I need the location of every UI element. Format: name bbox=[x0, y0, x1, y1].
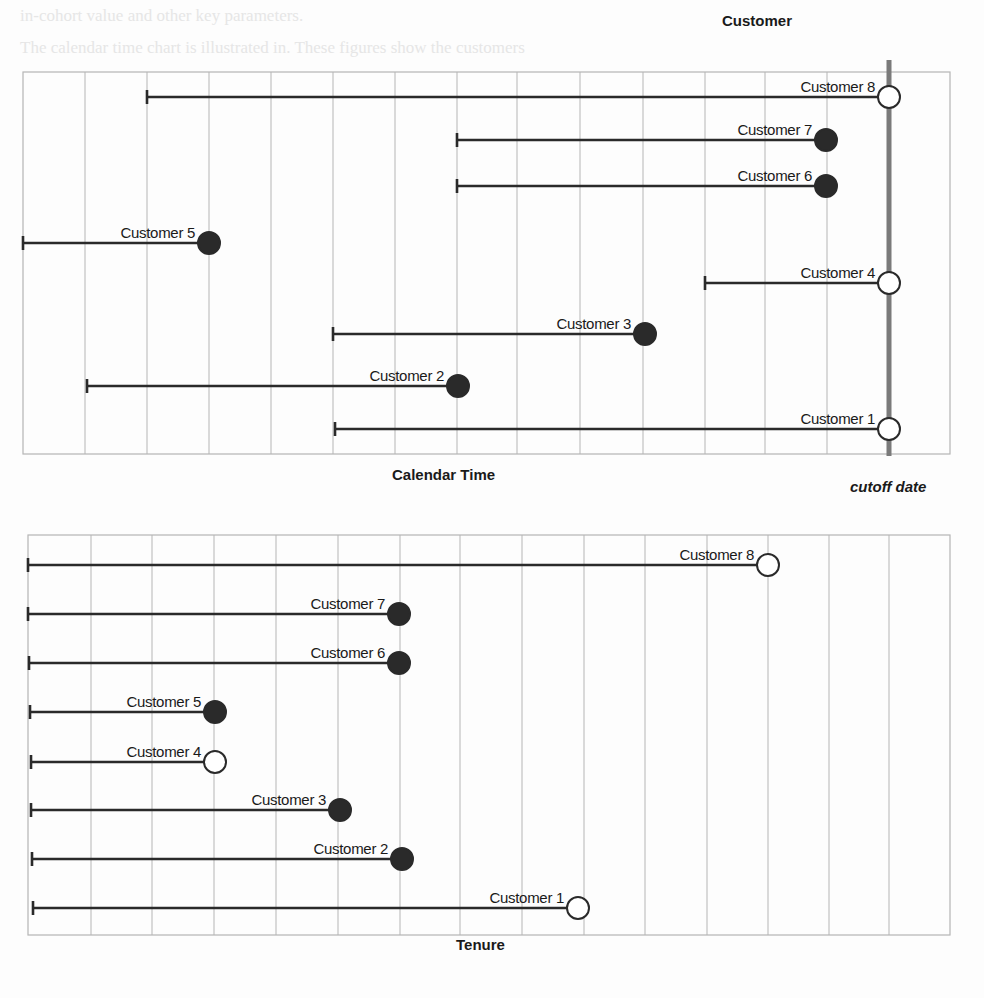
filled-circle-stopped-icon bbox=[634, 323, 656, 345]
filled-circle-stopped-icon bbox=[204, 701, 226, 723]
tenure-customer-label: Customer 5 bbox=[126, 693, 201, 710]
filled-circle-stopped-icon bbox=[391, 848, 413, 870]
filled-circle-stopped-icon bbox=[388, 652, 410, 674]
filled-circle-stopped-icon bbox=[447, 375, 469, 397]
filled-circle-stopped-icon bbox=[329, 799, 351, 821]
calendar-customer-label: Customer 1 bbox=[800, 410, 875, 427]
tenure-customer-label: Customer 3 bbox=[251, 791, 326, 808]
open-circle-active-icon bbox=[878, 272, 900, 294]
calendar-customer-label: Customer 5 bbox=[120, 224, 195, 241]
tenure-customer-label: Customer 7 bbox=[310, 595, 385, 612]
filled-circle-stopped-icon bbox=[198, 232, 220, 254]
tenure-customer-label: Customer 4 bbox=[126, 743, 201, 760]
open-circle-active-icon bbox=[567, 897, 589, 919]
open-circle-active-icon bbox=[204, 751, 226, 773]
tenure-customer-label: Customer 1 bbox=[489, 889, 564, 906]
tenure-axis-label: Tenure bbox=[456, 936, 505, 953]
figure-title: Customer bbox=[722, 12, 792, 29]
customer-timeline-figure: Customer 8Customer 7Customer 6Customer 5… bbox=[0, 0, 984, 998]
tenure-customer-label: Customer 6 bbox=[310, 644, 385, 661]
filled-circle-stopped-icon bbox=[388, 603, 410, 625]
tenure-frame bbox=[28, 535, 950, 935]
open-circle-active-icon bbox=[878, 418, 900, 440]
calendar-axis-label: Calendar Time bbox=[392, 466, 495, 483]
tenure-customer-label: Customer 8 bbox=[679, 546, 754, 563]
calendar-customer-label: Customer 2 bbox=[369, 367, 444, 384]
open-circle-active-icon bbox=[757, 554, 779, 576]
book-page: in-cohort value and other key parameters… bbox=[0, 0, 984, 998]
tenure-customer-label: Customer 2 bbox=[313, 840, 388, 857]
calendar-customer-label: Customer 3 bbox=[556, 315, 631, 332]
calendar-customer-label: Customer 4 bbox=[800, 264, 875, 281]
calendar-customer-label: Customer 7 bbox=[737, 121, 812, 138]
filled-circle-stopped-icon bbox=[815, 175, 837, 197]
filled-circle-stopped-icon bbox=[815, 129, 837, 151]
calendar-customer-label: Customer 6 bbox=[737, 167, 812, 184]
open-circle-active-icon bbox=[878, 86, 900, 108]
calendar-customer-label: Customer 8 bbox=[800, 78, 875, 95]
cutoff-label: cutoff date bbox=[850, 478, 926, 495]
